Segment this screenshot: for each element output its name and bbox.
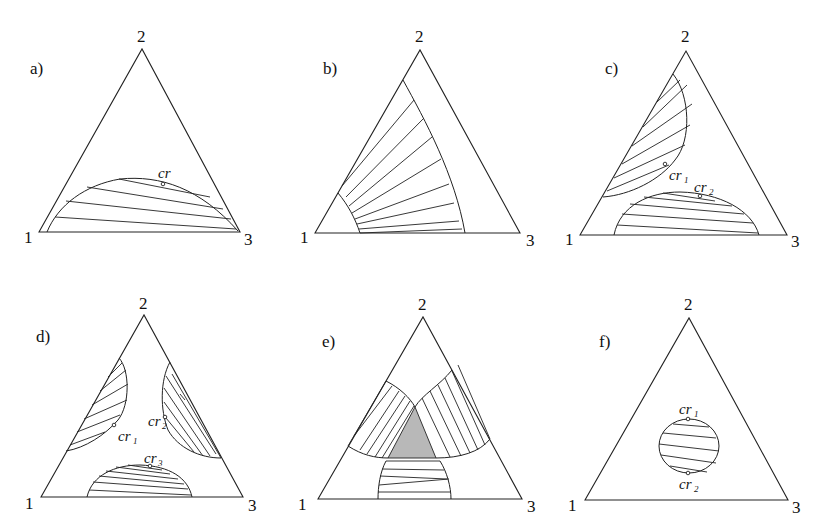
panel-a: a) 2 1 3 cr xyxy=(24,27,253,249)
binodal-curve xyxy=(47,178,238,232)
tie-lines-3 xyxy=(89,465,191,495)
vertex-1-label: 1 xyxy=(24,228,33,247)
critical-point-3-label: cr xyxy=(144,450,157,466)
critical-point-1-subscript: 1 xyxy=(133,436,138,446)
tie-lines-lower xyxy=(617,193,758,233)
ternary-triangle xyxy=(315,50,520,233)
critical-point-1-label: cr xyxy=(679,401,692,417)
vertex-1-label: 1 xyxy=(565,230,574,249)
vertex-3-label: 3 xyxy=(526,231,535,250)
tie-lines-2 xyxy=(164,374,221,458)
critical-point-2 xyxy=(163,415,167,419)
three-phase-region xyxy=(388,407,436,458)
vertex-3-label: 3 xyxy=(792,498,801,517)
critical-point-1-subscript: 1 xyxy=(694,409,699,419)
vertex-2-label: 2 xyxy=(139,294,148,313)
vertex-2-label: 2 xyxy=(684,295,693,314)
panel-e: e) 2 1 3 xyxy=(298,295,536,516)
ternary-triangle xyxy=(318,317,522,499)
critical-point xyxy=(161,182,165,186)
binodal-curve-right xyxy=(403,80,465,233)
critical-point-1 xyxy=(686,417,690,421)
vertex-1-label: 1 xyxy=(298,495,307,514)
critical-point-1-label: cr xyxy=(669,167,682,183)
binodal-bottom-left xyxy=(378,461,386,499)
vertex-3-label: 3 xyxy=(248,496,257,515)
tie-lines xyxy=(342,100,462,233)
panel-label-e: e) xyxy=(322,332,335,351)
critical-point-1 xyxy=(112,423,116,427)
critical-point-2-subscript: 2 xyxy=(694,484,699,494)
panel-label-a: a) xyxy=(30,59,43,78)
critical-point-2-subscript: 2 xyxy=(162,421,167,431)
panel-label-d: d) xyxy=(36,327,50,346)
critical-point-2-subscript: 2 xyxy=(709,187,714,197)
binodal-curve-left xyxy=(338,193,360,233)
panel-b: b) 2 1 3 xyxy=(300,27,535,250)
panel-d: d) 2 1 3 cr 1 cr 2 xyxy=(25,294,257,515)
critical-point-1-subscript: 1 xyxy=(684,175,689,185)
critical-point-3-subscript: 3 xyxy=(157,458,163,468)
vertex-1-label: 1 xyxy=(568,496,577,515)
panel-label-c: c) xyxy=(605,59,618,78)
panel-label-b: b) xyxy=(323,59,337,78)
vertex-2-label: 2 xyxy=(137,27,146,46)
vertex-2-label: 2 xyxy=(418,295,427,314)
tie-lines-bottom xyxy=(378,469,450,492)
critical-point-2-label: cr xyxy=(679,476,692,492)
vertex-2-label: 2 xyxy=(681,27,690,46)
binodal-right-top xyxy=(415,370,452,407)
panel-label-f: f) xyxy=(599,332,610,351)
critical-point-1-label: cr xyxy=(118,428,131,444)
critical-point-2-label: cr xyxy=(694,179,707,195)
panel-f: f) 2 1 3 cr 1 cr 2 xyxy=(568,295,801,517)
vertex-1-label: 1 xyxy=(25,494,34,513)
panel-c: c) 2 1 3 cr 1 cr 2 xyxy=(565,27,800,251)
ternary-triangle xyxy=(41,315,243,497)
critical-point-1 xyxy=(663,162,667,166)
vertex-3-label: 3 xyxy=(527,497,536,516)
vertex-3-label: 3 xyxy=(244,230,253,249)
critical-point-label: cr xyxy=(158,165,171,181)
binodal-closed-loop xyxy=(659,419,719,473)
binodal-right-bottom xyxy=(436,439,490,458)
vertex-3-label: 3 xyxy=(791,232,800,251)
critical-point-2 xyxy=(686,471,690,475)
vertex-2-label: 2 xyxy=(415,27,424,46)
ternary-diagram-figure: a) 2 1 3 cr b) 2 1 3 xyxy=(0,0,825,530)
vertex-1-label: 1 xyxy=(300,228,309,247)
critical-point-2-label: cr xyxy=(148,413,161,429)
